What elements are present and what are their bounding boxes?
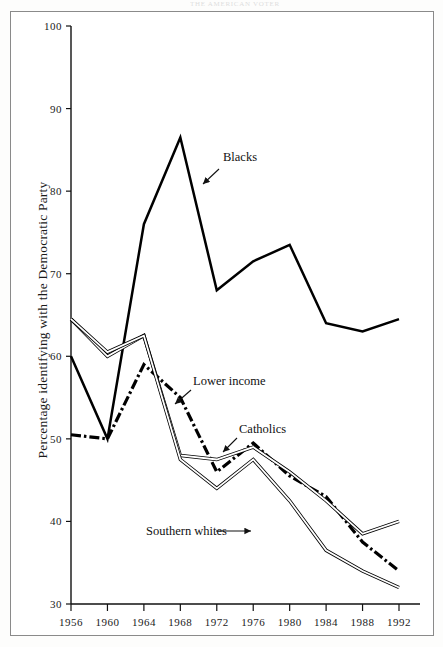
x-tick-label: 1956 [59,616,83,628]
annotation-southern-whites: Southern whites [146,524,251,538]
y-tick-label: 40 [50,515,62,527]
series-label-text: Catholics [239,422,286,436]
x-tick-label: 1964 [132,616,156,628]
annotation-blacks: Blacks [203,150,257,184]
y-tick-label: 100 [44,20,62,32]
x-tick-label: 1988 [351,616,375,628]
annotation-arrow [203,169,219,184]
page-running-header: THE AMERICAN VOTER [190,0,440,9]
y-tick-label: 70 [50,268,62,280]
series-lower-income [71,365,399,571]
series-label-text: Southern whites [146,524,227,538]
x-tick-group: 1956196019641968197219761980198419881992 [59,604,411,628]
y-tick-label: 60 [50,350,62,362]
y-tick-label: 30 [50,598,62,610]
series-label-text: Blacks [223,150,257,164]
y-tick-group: 30405060708090100 [44,20,71,610]
x-tick-label: 1976 [241,616,265,628]
annotation-arrow [223,438,237,452]
x-tick-label: 1992 [387,616,411,628]
line-chart: 3040506070809010019561960196419681972197… [11,12,433,635]
y-tick-label: 50 [50,433,62,445]
series-blacks [71,137,399,438]
y-tick-label: 90 [50,103,62,115]
figure-page: THE AMERICAN VOTER Percentage identifyin… [0,0,443,647]
series-label-text: Lower income [193,374,266,388]
annotation-lower-income: Lower income [175,374,266,404]
figure-frame: Percentage identifying with the Democrat… [10,11,434,636]
x-tick-label: 1968 [168,616,192,628]
x-tick-label: 1960 [95,616,119,628]
x-tick-label: 1972 [205,616,229,628]
series-catholics [71,319,399,534]
axes [71,26,420,604]
y-tick-label: 80 [50,185,62,197]
x-tick-label: 1980 [278,616,302,628]
x-tick-label: 1984 [314,616,338,628]
